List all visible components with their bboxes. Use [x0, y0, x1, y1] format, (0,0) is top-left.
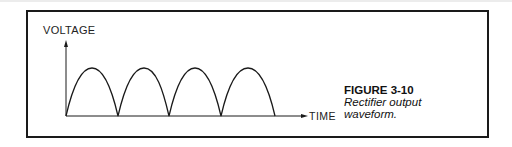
- caption-line-1: Rectifier output: [344, 96, 421, 108]
- rectifier-waveform-diagram: [0, 0, 512, 147]
- x-axis-arrow-icon: [301, 114, 308, 118]
- figure-number: FIGURE 3-10: [344, 84, 421, 96]
- y-axis-label: VOLTAGE: [43, 24, 95, 36]
- waveform-curve: [66, 68, 275, 116]
- caption-line-2: waveform.: [344, 108, 421, 120]
- y-axis-arrow-icon: [64, 40, 68, 47]
- x-axis-label: TIME: [309, 110, 336, 122]
- figure-caption: FIGURE 3-10 Rectifier output waveform.: [344, 84, 421, 120]
